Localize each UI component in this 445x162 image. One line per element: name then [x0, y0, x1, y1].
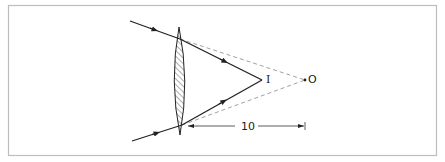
upper-incoming-arrow-icon: [150, 28, 155, 30]
lower-incoming-arrow-icon: [152, 133, 157, 135]
lower-dashed-extension: [182, 80, 305, 125]
upper-dashed-extension: [180, 39, 305, 80]
dimension-arrow-right-icon: [298, 124, 304, 128]
upper-refracted-arrow-icon: [220, 59, 225, 62]
lower-refracted-arrow-icon: [219, 101, 224, 104]
lens-ray-diagram: I O 10: [0, 0, 445, 162]
object-point-dot: [304, 79, 307, 82]
image-point-label: I: [266, 74, 270, 85]
convex-lens: [174, 27, 185, 135]
diagram-canvas: [0, 0, 445, 162]
object-point-label: O: [308, 74, 317, 85]
diagram-frame: [9, 6, 437, 156]
distance-label: 10: [238, 121, 258, 132]
dimension-arrow-left-icon: [188, 124, 194, 128]
